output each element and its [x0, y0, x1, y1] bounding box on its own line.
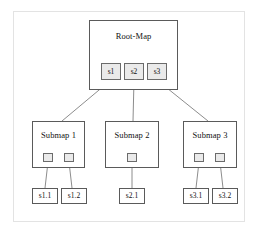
root-port-s2-label: s2	[125, 64, 143, 79]
submap-3-port-b[interactable]	[215, 153, 225, 162]
submap-1-node[interactable]: Submap 1	[32, 121, 85, 168]
leaf-node-s3-1[interactable]: s3.1	[183, 188, 209, 204]
root-port-s2[interactable]: s2	[124, 63, 144, 80]
submap-1-port-a[interactable]	[43, 153, 53, 162]
root-port-s3[interactable]: s3	[147, 63, 167, 80]
submap-3-port-a[interactable]	[194, 153, 204, 162]
root-port-s1-label: s1	[102, 64, 120, 79]
leaf-node-s3-2-label: s3.2	[213, 189, 237, 203]
root-port-s1[interactable]: s1	[101, 63, 121, 80]
submap-1-label: Submap 1	[33, 130, 84, 140]
leaf-node-s2-1[interactable]: s2.1	[119, 188, 145, 204]
leaf-node-s1-2[interactable]: s1.2	[61, 188, 87, 204]
leaf-node-s1-2-label: s1.2	[62, 189, 86, 203]
leaf-node-s3-1-label: s3.1	[184, 189, 208, 203]
leaf-node-s2-1-label: s2.1	[120, 189, 144, 203]
submap-3-label: Submap 3	[184, 130, 236, 140]
leaf-node-s3-2[interactable]: s3.2	[212, 188, 238, 204]
submap-1-port-b[interactable]	[64, 153, 74, 162]
submap-2-port-a[interactable]	[127, 153, 137, 162]
root-map-label: Root-Map	[90, 31, 177, 41]
submap-3-node[interactable]: Submap 3	[183, 121, 237, 168]
leaf-node-s1-1[interactable]: s1.1	[32, 188, 58, 204]
submap-2-label: Submap 2	[106, 130, 158, 140]
diagram-canvas: Root-Map Submap 1 Submap 2 Submap 3 s1 s…	[0, 0, 260, 234]
root-port-s3-label: s3	[148, 64, 166, 79]
leaf-node-s1-1-label: s1.1	[33, 189, 57, 203]
